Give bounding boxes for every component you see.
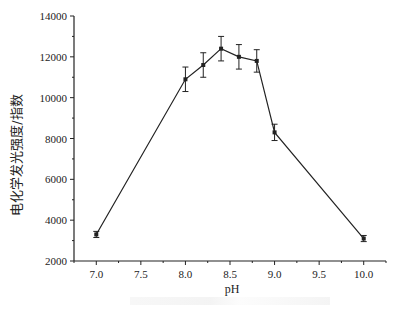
y-tick-label: 12000 xyxy=(40,51,68,63)
data-point-marker xyxy=(183,77,187,81)
figure-caption-blurred xyxy=(130,297,330,305)
line-chart: 20004000600080001000012000140007.07.58.0… xyxy=(0,0,402,311)
data-point-marker xyxy=(94,232,98,236)
x-tick-label: 9.5 xyxy=(312,268,326,280)
data-point-marker xyxy=(255,59,259,63)
data-point-marker xyxy=(219,47,223,51)
data-point-marker xyxy=(362,237,366,241)
x-tick-label: 8.5 xyxy=(223,268,237,280)
y-tick-label: 10000 xyxy=(40,92,68,104)
x-axis-title: pH xyxy=(225,282,240,296)
y-tick-label: 2000 xyxy=(45,255,68,267)
x-tick-label: 10.0 xyxy=(354,268,374,280)
data-line xyxy=(96,49,363,239)
x-tick-label: 9.0 xyxy=(268,268,282,280)
y-axis-title: 电化学发光强度/指数 xyxy=(6,94,25,215)
y-tick-label: 14000 xyxy=(40,10,68,22)
x-tick-label: 7.0 xyxy=(89,268,103,280)
x-tick-label: 8.0 xyxy=(179,268,193,280)
y-tick-label: 6000 xyxy=(45,173,68,185)
data-point-marker xyxy=(237,55,241,59)
y-tick-label: 4000 xyxy=(45,214,68,226)
y-tick-label: 8000 xyxy=(45,133,68,145)
x-tick-label: 7.5 xyxy=(134,268,148,280)
data-point-marker xyxy=(201,63,205,67)
data-point-marker xyxy=(273,130,277,134)
